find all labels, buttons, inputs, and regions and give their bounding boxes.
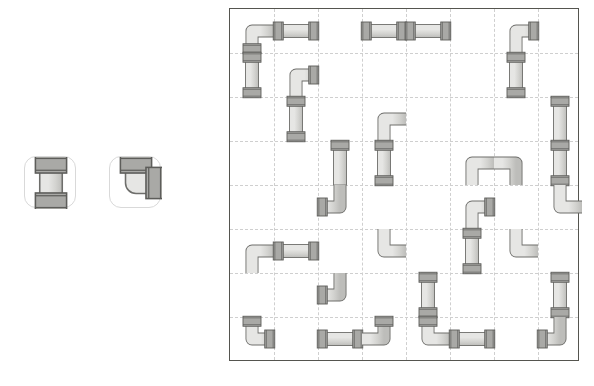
pipe-piece-straight[interactable] <box>494 53 538 97</box>
board-pieces-layer <box>230 9 578 360</box>
pipe-piece-elbow[interactable] <box>362 229 406 273</box>
pipe-piece-straight[interactable] <box>230 53 274 97</box>
pipe-piece-elbow[interactable] <box>538 317 582 361</box>
pipe-piece-elbow[interactable] <box>318 273 362 317</box>
slot-straight[interactable] <box>24 156 76 208</box>
pipe-piece-straight[interactable] <box>406 9 450 53</box>
pipe-puzzle-app <box>0 0 594 386</box>
pipe-piece-straight[interactable] <box>274 229 318 273</box>
pipe-piece-elbow[interactable] <box>494 141 538 185</box>
pipe-piece-elbow[interactable] <box>362 97 406 141</box>
piece-palette <box>0 0 220 386</box>
pipe-piece-elbow[interactable] <box>230 229 274 273</box>
pipe-piece-straight[interactable] <box>362 9 406 53</box>
pipe-piece-elbow[interactable] <box>494 229 538 273</box>
pipe-piece-straight[interactable] <box>538 97 582 141</box>
pipe-piece-elbow[interactable] <box>230 9 274 53</box>
pipe-piece-elbow[interactable] <box>450 141 494 185</box>
pipe-piece-straight[interactable] <box>274 97 318 141</box>
pipe-piece-elbow[interactable] <box>362 317 406 361</box>
pipe-straight-icon <box>25 157 77 209</box>
pipe-piece-straight[interactable] <box>538 273 582 317</box>
pipe-piece-straight[interactable] <box>450 229 494 273</box>
pipe-piece-elbow[interactable] <box>538 185 582 229</box>
pipe-piece-straight[interactable] <box>274 9 318 53</box>
pipe-piece-elbow[interactable] <box>494 9 538 53</box>
pipe-piece-elbow[interactable] <box>274 53 318 97</box>
pipe-elbow-icon <box>110 157 162 209</box>
slot-elbow[interactable] <box>109 156 161 208</box>
pipe-piece-elbow[interactable] <box>318 185 362 229</box>
pipe-piece-straight[interactable] <box>318 317 362 361</box>
puzzle-board[interactable] <box>229 8 579 361</box>
pipe-piece-straight[interactable] <box>318 141 362 185</box>
pipe-piece-straight[interactable] <box>538 141 582 185</box>
pipe-piece-straight[interactable] <box>362 141 406 185</box>
pipe-piece-straight[interactable] <box>406 273 450 317</box>
pipe-piece-elbow[interactable] <box>406 317 450 361</box>
pipe-piece-straight[interactable] <box>450 317 494 361</box>
pipe-piece-elbow[interactable] <box>450 185 494 229</box>
pipe-piece-elbow[interactable] <box>230 317 274 361</box>
